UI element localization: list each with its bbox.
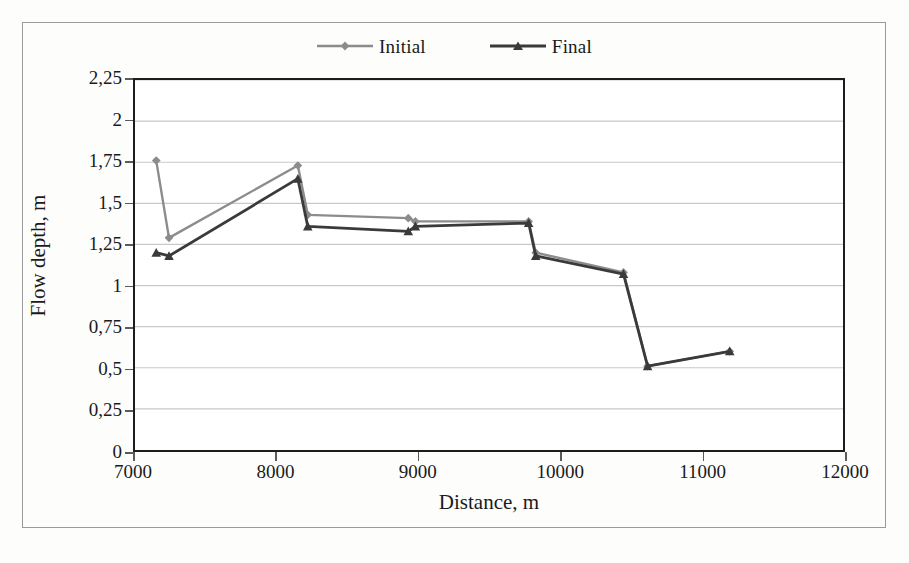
y-axis-title: Flow depth, m	[28, 146, 49, 366]
series-line	[156, 179, 729, 366]
x-axis-tick-mark	[845, 452, 847, 461]
legend-entry-initial: Initial	[317, 37, 426, 56]
legend-swatch-initial	[317, 39, 373, 53]
x-axis-tick-mark	[133, 452, 135, 461]
y-axis-tick-label: 0,5	[98, 359, 122, 378]
x-axis-tick-mark	[418, 452, 420, 461]
y-axis-tick-label: 2,25	[89, 68, 122, 87]
plot-area	[133, 78, 845, 452]
x-axis-tick-mark	[560, 452, 562, 461]
chart-figure: Initial Final 00,250,50,7511,251,51,7522…	[0, 0, 909, 563]
x-axis-tick-label: 8000	[256, 462, 294, 481]
x-axis-tick-label: 10000	[536, 462, 584, 481]
y-axis-tick-label: 1	[113, 276, 123, 295]
x-axis-tick-label: 9000	[399, 462, 437, 481]
x-axis-tick-mark	[703, 452, 705, 461]
y-axis-tick-label: 1,25	[89, 234, 122, 253]
series-line	[156, 161, 729, 367]
chart-legend: Initial Final	[0, 32, 909, 60]
y-axis-tick-label: 0	[113, 442, 123, 461]
x-axis-tick-label: 11000	[679, 462, 726, 481]
legend-entry-final: Final	[490, 37, 592, 56]
series-final	[151, 174, 734, 370]
x-axis-title: Distance, m	[133, 492, 845, 513]
x-axis-tick-mark	[275, 452, 277, 461]
y-axis-tick-labels: 00,250,50,7511,251,51,7522,25	[48, 78, 122, 452]
y-axis-tick-label: 1,5	[98, 193, 122, 212]
x-axis-tick-label: 12000	[821, 462, 869, 481]
legend-swatch-final	[490, 39, 546, 53]
y-axis-tick-label: 0,25	[89, 400, 122, 419]
data-series-layer	[135, 80, 843, 450]
data-point-marker	[152, 156, 161, 165]
legend-label-final: Final	[552, 37, 592, 56]
y-axis-tick-label: 1,75	[89, 151, 122, 170]
x-axis-tick-label: 7000	[114, 462, 152, 481]
y-axis-tick-label: 0,75	[89, 317, 122, 336]
y-axis-tick-label: 2	[113, 110, 123, 129]
series-initial	[152, 156, 734, 370]
legend-label-initial: Initial	[379, 37, 426, 56]
